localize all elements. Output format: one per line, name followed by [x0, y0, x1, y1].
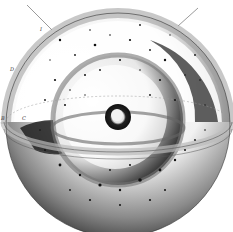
star-icon — [138, 178, 142, 182]
star-icon — [99, 69, 101, 71]
star-icon — [54, 79, 56, 81]
illustration-canvas: I D B C — [0, 0, 233, 232]
star-icon — [79, 174, 81, 176]
star-icon — [49, 59, 50, 60]
star-icon — [119, 189, 121, 191]
star-icon — [164, 59, 166, 61]
star-icon — [74, 54, 76, 56]
star-icon — [89, 29, 91, 31]
inner-core — [105, 104, 131, 130]
star-icon — [44, 99, 46, 101]
star-icon — [109, 169, 111, 171]
star-icon — [184, 149, 186, 151]
star-icon — [129, 39, 131, 41]
star-icon — [149, 94, 151, 96]
star-icon — [94, 44, 97, 47]
star-icon — [149, 49, 151, 51]
star-icon — [169, 34, 170, 35]
star-icon — [159, 79, 161, 81]
star-icon — [119, 204, 121, 206]
star-icon — [44, 149, 46, 151]
nested-spheres-engraving — [0, 0, 233, 232]
star-icon — [164, 189, 166, 191]
star-icon — [199, 79, 201, 81]
star-icon — [119, 59, 121, 61]
star-icon — [204, 129, 206, 131]
star-icon — [174, 159, 176, 161]
star-icon — [98, 183, 101, 186]
pointer-line-right — [178, 8, 198, 26]
star-icon — [159, 169, 162, 172]
label-d: D — [10, 66, 14, 72]
star-icon — [64, 104, 66, 106]
star-icon — [174, 99, 176, 101]
star-icon — [39, 129, 41, 131]
star-icon — [69, 189, 71, 191]
star-icon — [84, 74, 86, 76]
star-icon — [149, 199, 151, 201]
label-c: C — [22, 115, 26, 121]
star-icon — [139, 69, 141, 71]
label-b: B — [1, 115, 5, 121]
star-icon — [109, 34, 111, 36]
star-icon — [84, 94, 85, 95]
star-icon — [184, 74, 186, 76]
star-icon — [204, 104, 205, 105]
label-i: I — [40, 26, 42, 32]
star-icon — [89, 199, 91, 201]
star-icon — [129, 164, 131, 166]
star-icon — [194, 139, 196, 141]
star-icon — [59, 164, 62, 167]
star-icon — [69, 89, 71, 91]
star-icon — [139, 24, 141, 26]
star-icon — [59, 39, 61, 41]
star-icon — [194, 54, 196, 56]
